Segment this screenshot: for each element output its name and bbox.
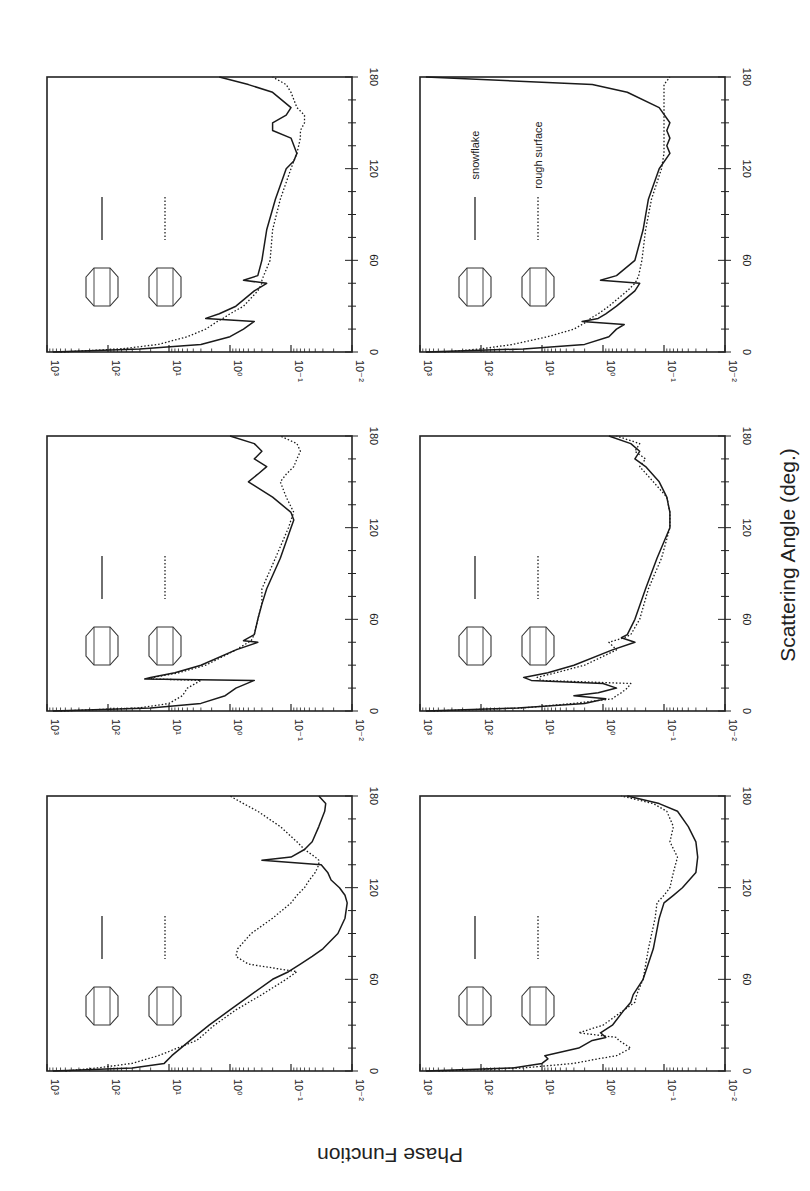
legend-label: rough surface xyxy=(532,121,544,188)
solid-series-line xyxy=(53,796,347,1071)
x-tick-label: 60 xyxy=(368,613,380,625)
y-tick-label: 10¹ xyxy=(171,719,183,735)
rough-snowflake-icon xyxy=(459,268,491,306)
panel-bullet-rosette-aggregate: 10³10²10¹10⁰10⁻¹10⁻²060120180 xyxy=(420,427,753,741)
x-tick-label: 180 xyxy=(368,787,380,805)
dotted-series-line xyxy=(434,436,670,711)
capped-column-icon xyxy=(459,987,491,1025)
x-tick-label: 0 xyxy=(368,349,380,355)
y-tick-label: 10² xyxy=(483,719,495,735)
x-tick-label: 60 xyxy=(368,254,380,266)
figure: 10³10²10¹10⁰10⁻¹10⁻²06012018010³10²10¹10… xyxy=(0,0,810,1191)
y-tick-label: 10⁻² xyxy=(354,1079,366,1101)
y-tick-label: 10⁰ xyxy=(232,719,244,736)
x-tick-label: 180 xyxy=(368,68,380,86)
x-tick-label: 0 xyxy=(368,1068,380,1074)
y-tick-label: 10⁻¹ xyxy=(293,360,305,382)
solid-series-line xyxy=(426,796,698,1071)
x-tick-label: 180 xyxy=(741,427,753,445)
x-tick-label: 120 xyxy=(368,518,380,536)
rough-column-icon xyxy=(522,268,554,306)
y-axis-label: Phase Function xyxy=(317,1143,463,1167)
bullet-rosette-icon xyxy=(459,627,491,665)
solid-series-line xyxy=(426,77,670,352)
y-tick-label: 10² xyxy=(483,360,495,376)
y-tick-label: 10⁰ xyxy=(605,719,617,736)
panel-sphere-spheroid: 10³10²10¹10⁰10⁻¹10⁻²060120180 xyxy=(47,787,380,1101)
spheroid-icon xyxy=(149,987,181,1025)
x-tick-label: 120 xyxy=(741,518,753,536)
y-tick-label: 10⁻² xyxy=(354,360,366,382)
x-tick-label: 60 xyxy=(741,973,753,985)
y-tick-label: 10¹ xyxy=(544,1079,556,1095)
panel-frame xyxy=(420,796,725,1071)
panel-frame xyxy=(420,436,725,711)
y-tick-label: 10⁻² xyxy=(727,360,739,382)
hexagonal-column-icon xyxy=(86,627,118,665)
solid-series-line xyxy=(426,436,670,711)
aggregate-icon xyxy=(522,627,554,665)
dotted-series-line xyxy=(438,796,677,1071)
dotted-series-line xyxy=(61,77,305,352)
y-tick-label: 10² xyxy=(110,360,122,376)
dotted-series-line xyxy=(444,77,670,352)
panel-frame xyxy=(420,77,725,352)
y-tick-label: 10⁻¹ xyxy=(666,719,678,741)
y-tick-label: 10³ xyxy=(422,360,434,376)
x-tick-label: 120 xyxy=(741,159,753,177)
y-tick-label: 10⁻¹ xyxy=(293,719,305,741)
y-tick-label: 10⁻² xyxy=(727,1079,739,1101)
y-tick-label: 10³ xyxy=(49,1079,61,1095)
solid-series-line xyxy=(53,436,294,711)
y-tick-label: 10⁻² xyxy=(354,719,366,741)
hexagonal-plate-icon xyxy=(86,268,118,306)
y-tick-label: 10⁻¹ xyxy=(293,1079,305,1101)
panel-column-hollow-column: 10³10²10¹10⁰10⁻¹10⁻²060120180 xyxy=(47,427,380,741)
x-tick-label: 180 xyxy=(741,68,753,86)
y-tick-label: 10¹ xyxy=(544,360,556,376)
x-tick-label: 60 xyxy=(368,973,380,985)
panel-frame xyxy=(47,77,352,352)
panel-plate-snowflake: 10³10²10¹10⁰10⁻¹10⁻²060120180 xyxy=(47,68,380,382)
phase-function-panels: 10³10²10¹10⁰10⁻¹10⁻²06012018010³10²10¹10… xyxy=(0,0,810,1191)
sphere-icon xyxy=(86,987,118,1025)
y-tick-label: 10⁻¹ xyxy=(666,1079,678,1101)
x-axis-label: Scattering Angle (deg.) xyxy=(776,448,800,662)
y-tick-label: 10² xyxy=(483,1079,495,1095)
snowflake-icon xyxy=(149,268,181,306)
y-tick-label: 10² xyxy=(110,719,122,735)
x-tick-label: 120 xyxy=(368,878,380,896)
y-tick-label: 10⁻¹ xyxy=(666,360,678,382)
y-tick-label: 10⁻² xyxy=(727,719,739,741)
y-tick-label: 10³ xyxy=(422,1079,434,1095)
panel-spatial-column-columns: 10³10²10¹10⁰10⁻¹10⁻²060120180 xyxy=(420,787,753,1101)
x-tick-label: 0 xyxy=(741,349,753,355)
x-tick-label: 60 xyxy=(741,613,753,625)
panel-frame xyxy=(47,436,352,711)
y-tick-label: 10⁰ xyxy=(232,1079,244,1096)
hollow-column-icon xyxy=(149,627,181,665)
y-tick-label: 10³ xyxy=(49,360,61,376)
x-tick-label: 0 xyxy=(741,708,753,714)
dotted-series-line xyxy=(61,436,301,711)
x-tick-label: 0 xyxy=(741,1068,753,1074)
y-tick-label: 10⁰ xyxy=(232,360,244,377)
y-tick-label: 10³ xyxy=(422,719,434,735)
x-tick-label: 60 xyxy=(741,254,753,266)
y-tick-label: 10¹ xyxy=(171,1079,183,1095)
x-tick-label: 180 xyxy=(368,427,380,445)
y-tick-label: 10² xyxy=(110,1079,122,1095)
legend-label: snowflake xyxy=(469,131,481,180)
y-tick-label: 10¹ xyxy=(544,719,556,735)
column-ring-icon xyxy=(522,987,554,1025)
dotted-series-line xyxy=(65,796,318,1071)
x-tick-label: 0 xyxy=(368,708,380,714)
panel-frame xyxy=(47,796,352,1071)
y-tick-label: 10³ xyxy=(49,719,61,735)
y-tick-label: 10⁰ xyxy=(605,1079,617,1096)
x-tick-label: 180 xyxy=(741,787,753,805)
panel-snowflake-rough-surface: 10³10²10¹10⁰10⁻¹10⁻²060120180snowflakero… xyxy=(420,68,753,382)
solid-series-line xyxy=(53,77,297,352)
x-tick-label: 120 xyxy=(741,878,753,896)
x-tick-label: 120 xyxy=(368,159,380,177)
